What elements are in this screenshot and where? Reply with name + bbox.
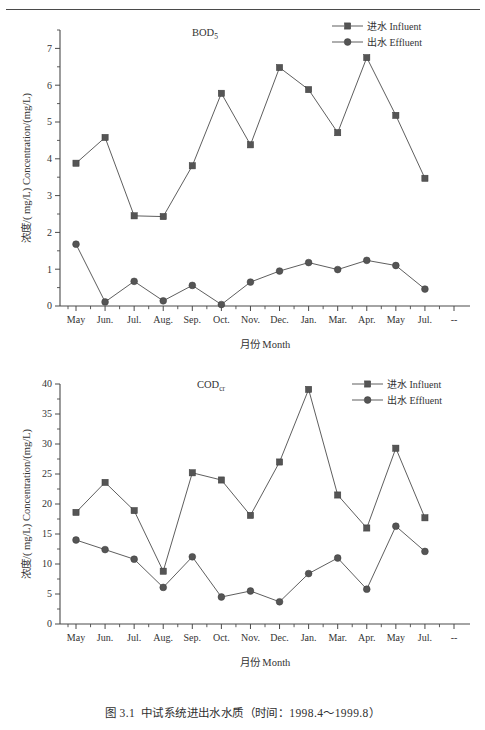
legend-marker-circle [364,397,371,404]
data-point-circle [102,299,109,306]
y-tick-label: 2 [47,227,52,238]
x-tick-label: Oct. [213,632,230,643]
data-point-square [247,142,253,148]
chart-codcr: 0510152025303540MayJun.Jul.Aug.Sep.Oct.N… [0,372,485,684]
y-tick-label: 1 [47,264,52,275]
data-point-circle [334,555,341,562]
data-point-circle [160,297,167,304]
y-tick-label: 10 [42,558,52,569]
x-tick-label: Jun. [97,632,113,643]
plot-area-bod5: 01234567MayJun.Jul.Aug.Sep.Oct.Nov.Dec.J… [0,18,485,358]
data-point-square [422,175,428,181]
data-point-circle [363,257,370,264]
data-point-square [189,163,195,169]
x-tick-label: Aug. [153,314,173,325]
x-tick-label: Sep. [184,314,202,325]
y-tick-label: 35 [42,408,52,419]
data-point-circle [189,282,196,289]
x-tick-label: -- [451,632,458,643]
figure-caption-number: 图 3.1 [105,707,135,719]
y-tick-label: 0 [47,618,52,629]
data-point-circle [102,546,109,553]
x-tick-label: Sep. [184,632,202,643]
y-tick-label: 0 [47,300,52,311]
data-point-square [218,90,224,96]
x-axis-title: 月份 Month [240,657,291,668]
y-tick-label: 30 [42,438,52,449]
data-point-circle [305,570,312,577]
data-point-square [335,130,341,136]
legend-marker-square [345,23,351,29]
data-point-circle [131,278,138,285]
y-tick-label: 7 [47,43,52,54]
data-point-circle [392,523,399,530]
x-tick-label: Jul. [418,632,432,643]
y-tick-label: 4 [47,153,52,164]
data-point-circle [131,556,138,563]
data-point-square [393,112,399,118]
x-tick-label: Nov. [241,314,260,325]
data-point-square [276,64,282,70]
data-point-circle [334,266,341,273]
figure-caption: 图 3.1中试系统进出水水质（时间：1998.4～1999.8） [0,704,485,720]
data-point-circle [392,262,399,269]
data-point-square [160,213,166,219]
x-tick-label: -- [451,314,458,325]
series-line-influent [76,389,425,571]
y-tick-label: 5 [47,588,52,599]
x-tick-label: May [387,632,405,643]
data-point-circle [160,584,167,591]
book-page: 01234567MayJun.Jul.Aug.Sep.Oct.Nov.Dec.J… [0,0,485,730]
data-point-circle [422,548,429,555]
x-tick-label: Apr. [358,632,376,643]
legend-label: 出水 Effluent [387,394,442,406]
legend-bod5: 进水 Influent出水 Effluent [332,21,422,48]
y-tick-label: 3 [47,190,52,201]
x-tick-label: May [67,632,85,643]
data-point-circle [247,279,254,286]
x-tick-label: Nov. [241,632,260,643]
data-point-square [276,459,282,465]
data-point-square [335,492,341,498]
data-point-square [160,568,166,574]
series-line-effluent [76,244,425,304]
figure-caption-text: 中试系统进出水水质（时间：1998.4～1999.8） [141,707,380,719]
data-point-circle [189,553,196,560]
legend-marker-circle [344,39,351,46]
y-tick-label: 20 [42,498,52,509]
data-point-square [306,87,312,93]
y-tick-label: 15 [42,528,52,539]
data-point-square [131,508,137,514]
data-point-circle [247,588,254,595]
y-tick-label: 5 [47,116,52,127]
x-tick-label: Mar. [328,632,347,643]
page-top-rule [6,9,480,10]
data-point-square [364,55,370,61]
x-tick-label: May [67,314,85,325]
data-point-circle [276,268,283,275]
data-point-square [364,525,370,531]
x-tick-label: May [387,314,405,325]
plot-area-codcr: 0510152025303540MayJun.Jul.Aug.Sep.Oct.N… [0,372,485,684]
data-point-square [218,477,224,483]
data-point-square [422,515,428,521]
data-point-square [131,213,137,219]
data-point-circle [73,241,80,248]
x-tick-label: Dec. [270,314,289,325]
data-point-circle [305,259,312,266]
data-point-circle [363,586,370,593]
data-point-circle [276,598,283,605]
x-tick-label: Aug. [153,632,173,643]
data-point-circle [73,537,80,544]
chart-title: CODcr [197,379,226,393]
x-tick-label: Apr. [358,314,376,325]
legend-marker-square [365,381,371,387]
data-point-square [73,160,79,166]
x-tick-label: Jan. [301,314,317,325]
x-tick-label: Mar. [328,314,347,325]
y-tick-label: 6 [47,80,52,91]
legend-label: 进水 Influent [387,379,441,390]
x-axis-title: 月份 Month [240,339,291,350]
series-line-influent [76,58,425,217]
data-point-square [73,509,79,515]
